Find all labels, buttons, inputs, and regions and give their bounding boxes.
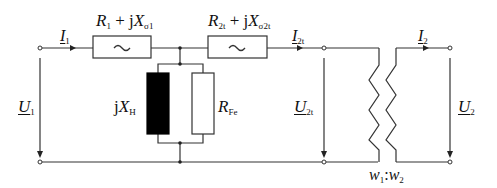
- label-current-i2t: I2t: [292, 28, 304, 46]
- label-turns-ratio: w1:w2: [369, 167, 404, 185]
- terminal-2t-top: [322, 46, 326, 50]
- terminal-2-bottom: [448, 160, 452, 164]
- label-current-i1: I1: [60, 28, 70, 46]
- terminal-2-top: [448, 46, 452, 50]
- label-magnetizing-reactance: jXH: [114, 98, 136, 117]
- arrow-i1: [70, 45, 76, 51]
- label-current-i2: I2: [418, 28, 428, 46]
- label-impedance-z2t: R2t + jXσ2t: [208, 12, 270, 31]
- terminal-1-top: [38, 46, 42, 50]
- terminal-1-bottom: [38, 160, 42, 164]
- label-impedance-z1: R1 + jXσ1: [96, 12, 153, 31]
- label-voltage-u1: U1: [18, 98, 35, 117]
- junction-dot: [178, 46, 182, 50]
- impedance-box-2t: [208, 36, 267, 58]
- junction-dot: [178, 160, 182, 164]
- secondary-winding: [386, 48, 396, 162]
- junction-dot: [178, 141, 182, 145]
- junction-dot: [178, 62, 182, 66]
- label-voltage-u2: U2: [458, 98, 475, 117]
- core-loss-resistance-rfe: [192, 73, 214, 134]
- primary-winding: [369, 48, 379, 162]
- magnetizing-reactance-xh: [147, 73, 169, 134]
- terminal-2t-bottom: [322, 160, 326, 164]
- arrow-u2: [447, 151, 453, 158]
- label-core-loss-resistance: RFe: [218, 98, 237, 117]
- arrow-u2t: [321, 151, 327, 158]
- arrow-u1: [37, 151, 43, 158]
- label-voltage-u2t: U2t: [294, 98, 313, 117]
